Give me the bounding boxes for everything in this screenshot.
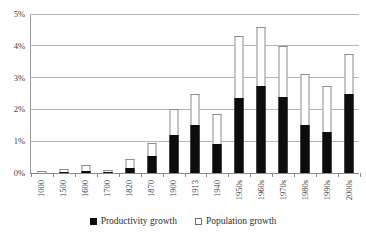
y-tick-label: 5%	[14, 10, 30, 19]
x-tick-mark	[206, 173, 207, 177]
legend-item-label: Productivity growth	[101, 216, 177, 226]
bar-slot	[97, 14, 119, 173]
x-tick-mark	[31, 173, 32, 177]
x-tick-label: 1000	[37, 180, 46, 197]
legend-item: Productivity growth	[90, 216, 177, 226]
bar-segment-population-growth	[301, 74, 310, 125]
bar-stack	[301, 74, 310, 173]
bar-slot	[338, 14, 360, 173]
bar-segment-population-growth	[169, 109, 178, 134]
x-tick-label: 1940	[213, 180, 222, 197]
x-tick-label: 1913	[191, 180, 200, 197]
x-tick-mark	[53, 173, 54, 177]
filled-square-icon	[90, 218, 97, 225]
x-tick-mark	[338, 173, 339, 177]
x-tick-label: 1970s	[279, 180, 288, 200]
y-tick-label: 0%	[14, 169, 30, 178]
x-tick-label: 1820	[125, 180, 134, 197]
bar-stack	[235, 36, 244, 173]
x-tick-label: 1950s	[235, 180, 244, 200]
x-axis-line	[30, 173, 359, 174]
bar-segment-productivity-growth	[147, 156, 156, 173]
bar-segment-productivity-growth	[191, 125, 200, 173]
bar-segment-productivity-growth	[213, 144, 222, 173]
x-tick-label: 1600	[81, 180, 90, 197]
x-tick-label: 1500	[59, 180, 68, 197]
bar-stack	[125, 159, 134, 173]
x-tick-label: 1900	[169, 180, 178, 197]
chart-container: 0%1%2%3%4%5% 100015001600170018201870190…	[0, 0, 366, 244]
bar-segment-productivity-growth	[279, 97, 288, 173]
x-tick-label: 1700	[103, 180, 112, 197]
x-tick-label: 1870	[147, 180, 156, 197]
chart-legend: Productivity growthPopulation growth	[0, 216, 366, 226]
bar-segment-productivity-growth	[169, 135, 178, 173]
bar-slot	[228, 14, 250, 173]
x-tick-mark	[294, 173, 295, 177]
x-tick-mark	[163, 173, 164, 177]
legend-item-label: Population growth	[206, 216, 276, 226]
x-tick-mark	[250, 173, 251, 177]
bar-stack	[213, 114, 222, 173]
plot-area: 0%1%2%3%4%5%	[30, 14, 359, 173]
y-tick-label: 4%	[14, 42, 30, 51]
bar-stack	[279, 46, 288, 173]
x-tick-mark	[316, 173, 317, 177]
legend-item: Population growth	[195, 216, 276, 226]
bar-stack	[191, 94, 200, 173]
x-tick-label: 2000s	[345, 180, 354, 200]
bar-segment-productivity-growth	[345, 94, 354, 174]
bar-stack	[81, 165, 90, 173]
bar-stack	[257, 27, 266, 173]
bar-segment-productivity-growth	[257, 86, 266, 173]
y-tick-label: 2%	[14, 105, 30, 114]
bar-stack	[323, 86, 332, 173]
bar-slot	[316, 14, 338, 173]
x-tick-mark	[75, 173, 76, 177]
bar-segment-population-growth	[345, 54, 354, 94]
x-tick-label: 1980s	[301, 180, 310, 200]
x-tick-mark	[97, 173, 98, 177]
x-tick-mark	[119, 173, 120, 177]
x-tick-label: 1990s	[323, 180, 332, 200]
y-tick-label: 1%	[14, 137, 30, 146]
x-tick-mark	[185, 173, 186, 177]
bar-slot	[206, 14, 228, 173]
bar-slot	[185, 14, 207, 173]
bar-segment-population-growth	[147, 143, 156, 156]
bar-slot	[119, 14, 141, 173]
bar-slot	[75, 14, 97, 173]
x-tick-mark	[272, 173, 273, 177]
bar-segment-productivity-growth	[301, 125, 310, 173]
open-square-icon	[195, 218, 202, 225]
x-tick-mark	[141, 173, 142, 177]
x-tick-mark	[228, 173, 229, 177]
bar-segment-population-growth	[235, 36, 244, 98]
bars-group	[31, 14, 359, 173]
bar-segment-population-growth	[323, 86, 332, 132]
bar-slot	[31, 14, 53, 173]
bar-stack	[147, 143, 156, 173]
bar-segment-population-growth	[279, 46, 288, 97]
x-tick-mark	[360, 173, 361, 177]
bar-stack	[169, 109, 178, 173]
y-tick-label: 3%	[14, 73, 30, 82]
bar-segment-population-growth	[257, 27, 266, 86]
bar-segment-productivity-growth	[323, 132, 332, 173]
bar-slot	[141, 14, 163, 173]
bar-slot	[163, 14, 185, 173]
bar-stack	[345, 54, 354, 173]
bar-segment-population-growth	[125, 159, 134, 169]
bar-segment-productivity-growth	[235, 98, 244, 173]
bar-slot	[53, 14, 75, 173]
bar-segment-population-growth	[191, 94, 200, 126]
bar-slot	[294, 14, 316, 173]
x-tick-label: 1960s	[257, 180, 266, 200]
bar-slot	[250, 14, 272, 173]
bar-slot	[272, 14, 294, 173]
bar-segment-population-growth	[213, 114, 222, 144]
